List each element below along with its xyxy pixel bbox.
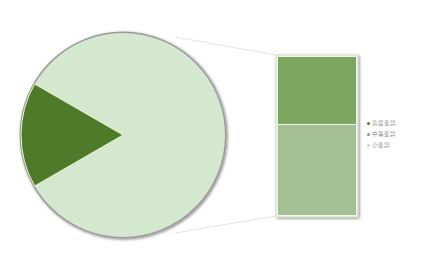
legend: 高度变异中等变异小变异 <box>367 118 396 151</box>
bar-of-pie-chart <box>0 0 421 261</box>
legend-label: 小变异 <box>372 140 390 151</box>
legend-marker-icon <box>367 144 370 147</box>
legend-label: 中等变异 <box>372 129 396 140</box>
bar-segment-1 <box>278 125 356 215</box>
bar-segment-0 <box>278 57 356 124</box>
legend-marker-icon <box>367 133 370 136</box>
legend-item: 小变异 <box>367 140 396 151</box>
pie <box>20 32 227 239</box>
legend-label: 高度变异 <box>372 118 396 129</box>
legend-item: 高度变异 <box>367 118 396 129</box>
connector-line-top <box>175 37 276 55</box>
legend-marker-icon <box>367 122 370 125</box>
connector-line-bottom <box>175 216 276 233</box>
legend-item: 中等变异 <box>367 129 396 140</box>
stacked-bar <box>276 55 358 217</box>
